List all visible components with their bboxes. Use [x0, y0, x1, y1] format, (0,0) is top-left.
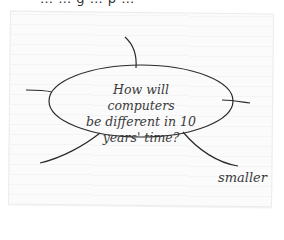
branch-left	[26, 90, 52, 92]
central-question-line-2: be different in 10	[80, 114, 202, 130]
central-question-line-3: years' time?	[80, 130, 202, 146]
branch-label-smaller: smaller	[218, 170, 267, 185]
branch-top	[125, 37, 136, 68]
branch-right	[222, 100, 250, 103]
central-question: How will computers be different in 10 ye…	[80, 82, 202, 146]
central-question-line-1: How will computers	[80, 82, 202, 114]
